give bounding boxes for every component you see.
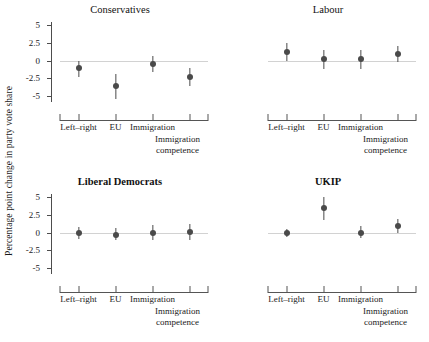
x-axis-tick [397, 286, 398, 293]
y-axis-tick [47, 233, 51, 234]
x-axis-label-line: Immigration [363, 134, 408, 144]
data-point [113, 232, 119, 238]
x-axis-end-cap [416, 286, 417, 293]
x-axis-tick [397, 114, 398, 121]
y-axis-tick [47, 250, 51, 251]
x-axis-label-line: Immigration [130, 294, 175, 304]
x-axis-label-line: Left–right [268, 294, 305, 304]
data-point [358, 230, 364, 236]
x-axis-label-line: competence [156, 317, 199, 327]
y-axis-tick [47, 96, 51, 97]
x-axis-tick [152, 114, 153, 121]
panel-title: Labour [226, 4, 429, 15]
x-axis-end-cap [208, 114, 209, 121]
panel-title: UKIP [226, 176, 429, 187]
x-axis-tick [323, 114, 324, 121]
data-point [187, 229, 193, 235]
y-axis-tick-label: -5 [33, 91, 41, 101]
x-axis-tick [115, 286, 116, 293]
y-axis-tick [47, 61, 51, 62]
y-axis-tick [47, 78, 51, 79]
x-axis-label-line: EU [110, 122, 122, 132]
x-axis-tick [323, 286, 324, 293]
data-point [284, 230, 290, 236]
y-axis-tick [47, 215, 51, 216]
data-point [284, 49, 290, 55]
data-point [150, 230, 156, 236]
y-axis-tick-label: 5 [36, 20, 41, 30]
x-axis-tick [115, 114, 116, 121]
x-axis-label-line: Immigration [130, 122, 175, 132]
y-axis-tick [47, 268, 51, 269]
y-axis-tick-label: -2.5 [26, 73, 40, 83]
x-axis-label: Immigration [130, 294, 175, 305]
plot-area: 52.50-2.5-5 [60, 194, 208, 274]
x-axis-labels: Left–rightEUImmigrationImmigrationcompet… [226, 294, 429, 340]
x-axis-label-line: Immigration [363, 306, 408, 316]
x-axis-labels: Left–rightEUImmigrationImmigrationcompet… [18, 294, 222, 340]
x-axis-label: EU [318, 122, 330, 133]
x-axis-labels: Left–rightEUImmigrationImmigrationcompet… [226, 122, 429, 168]
x-axis-tick [189, 114, 190, 121]
x-axis-label-line: competence [364, 145, 407, 155]
panel-labour: Labour Left–rightEUImmigrationImmigratio… [226, 2, 429, 173]
x-axis-tick [189, 286, 190, 293]
x-axis-label-line: EU [110, 294, 122, 304]
x-axis-tick [286, 114, 287, 121]
data-point [150, 61, 156, 67]
x-axis-label-line: Immigration [338, 294, 383, 304]
x-axis-label: Immigration [338, 294, 383, 305]
y-axis-title-container: Percentage point change in party vote sh… [0, 0, 18, 342]
x-axis-line [268, 292, 416, 293]
y-axis-line [51, 194, 52, 274]
x-axis-label-line: Left–right [60, 294, 97, 304]
x-axis-label-line: Immigration [155, 134, 200, 144]
x-axis-tick [78, 114, 79, 121]
panel-title: Conservatives [18, 4, 222, 15]
y-axis-line [51, 22, 52, 102]
y-axis-tick-label: 2.5 [29, 210, 40, 220]
x-axis-label: Immigrationcompetence [145, 134, 211, 155]
x-axis-label: EU [110, 294, 122, 305]
x-axis-tick [78, 286, 79, 293]
panel-liberal-democrats: Liberal Democrats 52.50-2.5-5 Left–right… [18, 174, 222, 342]
x-axis-label: Immigration [338, 122, 383, 133]
data-point [395, 223, 401, 229]
y-axis-tick [47, 43, 51, 44]
x-axis-end-cap [60, 114, 61, 121]
x-axis-bracket [60, 286, 208, 293]
data-point [187, 74, 193, 80]
data-point [321, 205, 327, 211]
y-axis-tick [47, 25, 51, 26]
x-axis-end-cap [60, 286, 61, 293]
x-axis-labels: Left–rightEUImmigrationImmigrationcompet… [18, 122, 222, 168]
x-axis-label: Immigrationcompetence [353, 134, 419, 155]
data-point [76, 65, 82, 71]
zero-reference-line [268, 61, 416, 62]
zero-reference-line [60, 61, 208, 62]
y-axis-tick-label: 0 [36, 228, 41, 238]
x-axis-end-cap [268, 286, 269, 293]
x-axis-line [60, 120, 208, 121]
x-axis-label-line: Left–right [60, 122, 97, 132]
x-axis-line [268, 120, 416, 121]
y-axis-tick-label: 0 [36, 56, 41, 66]
x-axis-line [60, 292, 208, 293]
y-axis-tick-label: -5 [33, 263, 41, 273]
x-axis-tick [286, 286, 287, 293]
x-axis-label-line: EU [318, 294, 330, 304]
x-axis-tick [360, 286, 361, 293]
data-point [76, 230, 82, 236]
data-point [113, 83, 119, 89]
plot-area: 52.50-2.5-5 [60, 22, 208, 102]
data-point [395, 51, 401, 57]
y-axis-tick-label: -2.5 [26, 245, 40, 255]
panel-title: Liberal Democrats [18, 176, 222, 187]
x-axis-label: Left–right [268, 122, 305, 133]
x-axis-bracket [268, 286, 416, 293]
x-axis-label: Left–right [268, 294, 305, 305]
x-axis-end-cap [208, 286, 209, 293]
data-point [358, 56, 364, 62]
y-axis-tick-label: 2.5 [29, 38, 40, 48]
coefficient-plot-figure: Percentage point change in party vote sh… [0, 0, 429, 342]
